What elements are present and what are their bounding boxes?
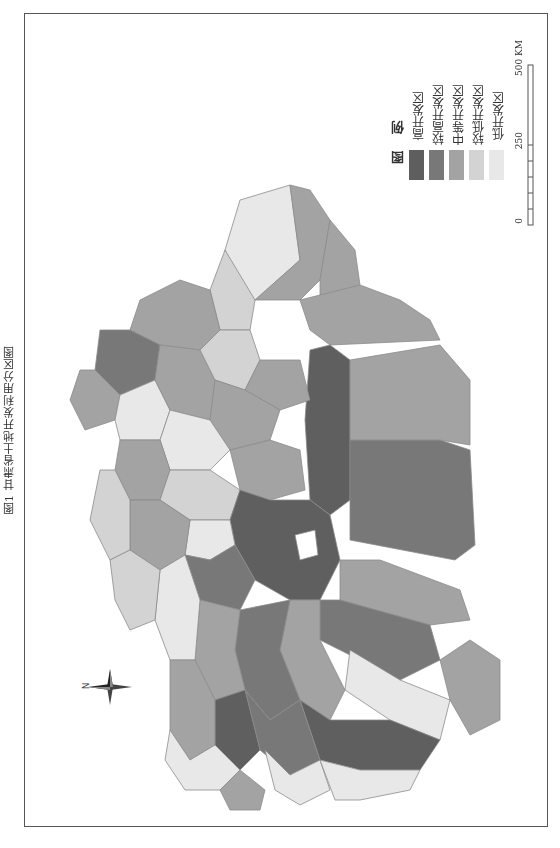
compass-north-label: N bbox=[81, 683, 91, 690]
compass-rose-icon bbox=[0, 0, 560, 848]
